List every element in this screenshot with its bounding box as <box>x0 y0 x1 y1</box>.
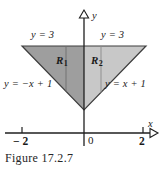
label-top-left-equation: y = 3 <box>31 30 54 41</box>
label-region-r1: R1 <box>56 55 68 68</box>
label-region-r2-base: R <box>91 54 98 66</box>
label-x-axis: x <box>148 119 153 130</box>
label-region-r1-subscript: 1 <box>64 59 68 68</box>
figure-caption: Figure 17.2.7 <box>5 151 73 166</box>
label-right-side-equation: y = x + 1 <box>105 79 146 90</box>
label-origin: 0 <box>88 135 94 146</box>
label-x-tick-plus2: 2 <box>139 136 145 148</box>
x-axis-arrowhead-icon <box>150 128 158 137</box>
label-region-r2-subscript: 2 <box>99 59 103 68</box>
figure-container: y = 3 y = 3 y = −x + 1 y = x + 1 R1 R2 y… <box>0 0 164 171</box>
label-left-side-equation: y = −x + 1 <box>4 79 52 90</box>
label-y-axis: y <box>92 11 97 22</box>
label-top-right-equation: y = 3 <box>101 30 124 41</box>
y-axis-arrowhead-icon <box>79 10 88 18</box>
label-region-r2: R2 <box>91 55 103 68</box>
label-region-r1-base: R <box>56 54 63 66</box>
label-x-tick-minus2: − 2 <box>13 136 28 148</box>
